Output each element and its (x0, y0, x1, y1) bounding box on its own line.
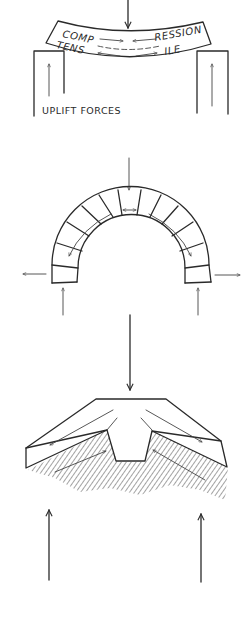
folded-plate-panel (26, 315, 228, 582)
voussoir-joints (52, 190, 209, 268)
right-support (197, 51, 228, 114)
crease-right (141, 418, 152, 430)
compression-arrow-icon (100, 39, 123, 41)
arch-outer (52, 187, 211, 283)
label-ile: ILE (163, 43, 181, 57)
beam-panel: COMP RESSION TENS ILE UPLIFT FORCES (34, 0, 228, 116)
arch-base-left (52, 282, 77, 283)
structural-forces-diagram: COMP RESSION TENS ILE UPLIFT FORCES (0, 0, 251, 621)
arch-base-right (185, 282, 211, 283)
uplift-forces-label: UPLIFT FORCES (42, 105, 121, 116)
arch-panel (23, 158, 240, 315)
compression-arrow-icon (133, 39, 156, 41)
neutral-axis (98, 46, 160, 50)
crease-left (107, 418, 117, 430)
